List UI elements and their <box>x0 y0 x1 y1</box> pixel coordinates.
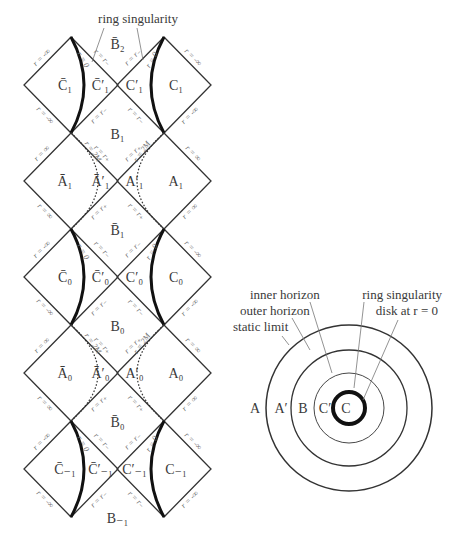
horizon-label: r = r₋ <box>123 239 143 259</box>
region-label-between: B̄₀ <box>110 415 124 430</box>
outer-edge-label: r = -∞ <box>35 105 56 126</box>
outer-edge-label: r = ∞ <box>180 201 199 220</box>
region-label-left: C̄₀ <box>58 270 72 285</box>
ring-singularity-callout: ring singularity <box>98 11 178 26</box>
horizon-label: r = r₋ <box>89 297 109 317</box>
penrose-row-singular: r = 0r = 0r = -∞r = -∞r = -∞r = -∞r = r₋… <box>24 229 211 334</box>
outer-edge-label: r = -∞ <box>179 488 200 509</box>
region-label: A′ <box>274 401 287 416</box>
region-label-left-inner: C̄′₀ <box>92 270 109 285</box>
horizon-label: r = r₋ <box>92 239 112 259</box>
region-label-left-inner: Ā′₁ <box>91 174 109 189</box>
cross-section-diagram: AA′BC′Cinner horizonouter horizonstatic … <box>233 287 442 491</box>
outer-edge-label: r = -∞ <box>179 104 200 125</box>
region-label-right: C₀ <box>169 270 183 285</box>
sing-label-left: r = 0 <box>75 242 91 261</box>
horizon-label: r = r₊ <box>126 201 146 221</box>
outer-edge-label: r = ∞ <box>36 394 55 413</box>
outer-edge-label: r = ∞ <box>32 143 51 162</box>
outer-edge-label: r = ∞ <box>32 335 51 354</box>
outer-edge-label: r = -∞ <box>183 431 204 452</box>
penrose-row-singular: r = 0r = 0r = -∞r = -∞r = -∞r = -∞r = r₋… <box>24 37 211 142</box>
region-label-between: B₀ <box>110 319 124 334</box>
horizon-label: r = r₋ <box>123 47 143 67</box>
static-limit-label: static limit <box>233 319 289 334</box>
region-label-left-inner: Ā′₀ <box>91 366 109 381</box>
region-label: B <box>298 401 307 416</box>
region-label-right: C₋₁ <box>165 462 187 477</box>
static-limit-arrow <box>282 336 289 345</box>
outer-edge-label: r = ∞ <box>184 336 203 355</box>
region-label-left: C̄₋₁ <box>54 462 76 477</box>
penrose-row-asymptotic: r = 2Mr = 2Mr = ∞r = ∞r = ∞r = ∞r = r₊r … <box>24 133 211 238</box>
outer-edge-label: r = -∞ <box>183 239 204 260</box>
outer-edge-label: r = -∞ <box>179 296 200 317</box>
outer-edge-label: r = ∞ <box>184 144 203 163</box>
outer-edge-label: r = -∞ <box>35 489 56 510</box>
ring-singularity-label: ring singularity <box>362 287 442 302</box>
horizon-label: r = r₋ <box>126 489 146 509</box>
disk-label: disk at r = 0 <box>376 303 438 318</box>
region-label: C′ <box>319 401 331 416</box>
penrose-row-asymptotic: r = 2Mr = 2Mr = ∞r = ∞r = ∞r = ∞r = r₊r … <box>24 325 211 430</box>
region-label-left: Ā₁ <box>58 174 73 189</box>
horizon-label: r = r₊ <box>126 393 146 413</box>
region-label-right-inner: A′₀ <box>125 366 143 381</box>
horizon-label: r = r₋ <box>126 297 146 317</box>
penrose-diagram: r = 0r = 0r = -∞r = -∞r = -∞r = -∞r = r₋… <box>24 11 211 526</box>
region-label-top: B̄₂ <box>110 37 124 52</box>
outer-edge-label: r = -∞ <box>183 47 204 68</box>
outer-edge-label: r = ∞ <box>180 393 199 412</box>
horizon-label: r = r₊ <box>89 201 109 221</box>
horizon-label: r = r₋ <box>126 105 146 125</box>
region-label-right-inner: A′₁ <box>125 174 143 189</box>
penrose-row-singular: r = 0r = 0r = -∞r = -∞r = -∞r = -∞r = r₋… <box>24 421 211 526</box>
outer-horizon-label: outer horizon <box>240 303 310 318</box>
sing-label-left: r = 0 <box>75 50 91 69</box>
region-label-right: A₁ <box>169 174 184 189</box>
horizon-label: r = r₊ <box>89 393 109 413</box>
region-label-between: B₋₁ <box>107 511 129 526</box>
region-label-right-inner: C′₋₁ <box>122 462 147 477</box>
inner-horizon-label: inner horizon <box>250 287 320 302</box>
outer-edge-label: r = -∞ <box>31 430 52 451</box>
horizon-label: r = r₋ <box>92 431 112 451</box>
region-label-right: A₀ <box>169 366 184 381</box>
region-label-right-inner: C′₁ <box>126 78 143 93</box>
ring-singularity-arrow <box>354 302 364 388</box>
region-label-left-inner: C̄′₁ <box>92 78 109 93</box>
horizon-label: r = r₋ <box>89 105 109 125</box>
region-label-right: C₁ <box>169 78 183 93</box>
outer-edge-label: r = -∞ <box>31 238 52 259</box>
outer-edge-label: r = ∞ <box>36 202 55 221</box>
horizon-label: r = r₋ <box>89 489 109 509</box>
region-label-left: C̄₁ <box>58 78 72 93</box>
region-label-left-inner: C̄′₋₁ <box>88 462 113 477</box>
region-label: A <box>250 401 261 416</box>
region-label: C <box>341 401 350 416</box>
sing-label-left: r = 0 <box>75 434 91 453</box>
region-label-right-inner: C′₀ <box>126 270 143 285</box>
region-label-left: Ā₀ <box>58 366 73 381</box>
region-label-between: B₁ <box>110 127 124 142</box>
horizon-label: r = r₋ <box>123 431 143 451</box>
kerr-penrose-diagram: r = 0r = 0r = -∞r = -∞r = -∞r = -∞r = r₋… <box>0 0 462 542</box>
outer-edge-label: r = -∞ <box>31 46 52 67</box>
region-label-between: B̄₁ <box>110 223 124 238</box>
outer-edge-label: r = -∞ <box>35 297 56 318</box>
